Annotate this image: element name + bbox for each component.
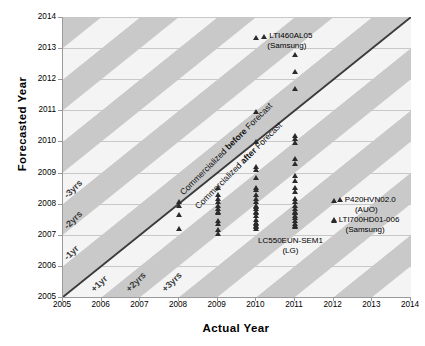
data-point [215, 231, 221, 236]
x-tick-label: 2012 [313, 300, 353, 309]
y-tick-mark [58, 173, 62, 174]
y-tick-label: 2011 [22, 105, 56, 114]
callout-manufacturer: (Samsung) [261, 41, 312, 51]
point-callout: LTI460AL05(Samsung) [261, 31, 312, 51]
data-point [253, 167, 259, 172]
data-point [292, 161, 298, 166]
data-point [176, 226, 182, 231]
callout-model-name: P420HVN02.0 [345, 195, 396, 204]
y-tick-label: 2008 [22, 199, 56, 208]
data-point [292, 224, 298, 229]
data-point [253, 109, 259, 114]
data-point [292, 69, 298, 74]
data-point [292, 140, 298, 145]
data-point [215, 185, 221, 190]
y-tick-label: 2013 [22, 43, 56, 52]
x-tick-label: 2006 [81, 300, 121, 309]
x-axis-title: Actual Year [62, 322, 410, 334]
callout-line-name: LC550EUN-SEM1 [258, 236, 323, 246]
y-tick-mark [58, 17, 62, 18]
data-point [176, 203, 182, 208]
callout-line-name: LTI700HD01-006 [331, 215, 400, 225]
data-point [215, 210, 221, 215]
callout-line-name: P420HVN02.0 [337, 195, 396, 205]
y-tick-mark [58, 266, 62, 267]
x-tick-label: 2008 [158, 300, 198, 309]
y-tick-label: 2012 [22, 74, 56, 83]
callout-model-name: LTI700HD01-006 [339, 215, 400, 224]
point-callout: P420HVN02.0(AUO) [337, 195, 396, 215]
x-tick-mark [410, 297, 411, 301]
data-point [292, 52, 298, 57]
y-tick-label: 2009 [22, 168, 56, 177]
x-tick-mark [101, 297, 102, 301]
x-tick-mark [294, 297, 295, 301]
y-tick-mark [58, 141, 62, 142]
x-tick-mark [371, 297, 372, 301]
x-tick-mark [217, 297, 218, 301]
data-point [253, 139, 259, 144]
data-point [253, 226, 259, 231]
x-tick-label: 2009 [197, 300, 237, 309]
callout-manufacturer: (LG) [258, 246, 323, 256]
data-point [176, 212, 182, 217]
x-tick-label: 2011 [274, 300, 314, 309]
y-tick-label: 2014 [22, 12, 56, 21]
x-tick-label: 2013 [351, 300, 391, 309]
y-tick-mark [58, 79, 62, 80]
callout-model-name: LTI460AL05 [269, 31, 312, 40]
point-callout: LTI700HD01-006(Samsung) [331, 215, 400, 235]
data-point-layer [63, 17, 411, 297]
x-tick-mark [62, 297, 63, 301]
y-tick-mark [58, 110, 62, 111]
forecast-accuracy-chart: Forecasted Year Actual Year -3yrs-2yrs-1… [0, 0, 425, 346]
plot-area: -3yrs-2yrs-1yr+1yr+2yrs+3yrsCommercializ… [62, 17, 411, 298]
data-point [292, 189, 298, 194]
x-tick-mark [333, 297, 334, 301]
x-tick-label: 2010 [235, 300, 275, 309]
x-tick-label: 2007 [119, 300, 159, 309]
x-tick-mark [139, 297, 140, 301]
data-point [292, 86, 298, 91]
y-tick-label: 2010 [22, 136, 56, 145]
y-tick-mark [58, 235, 62, 236]
x-tick-mark [255, 297, 256, 301]
y-tick-label: 2006 [22, 261, 56, 270]
data-point [292, 178, 298, 183]
x-tick-label: 2005 [42, 300, 82, 309]
point-callout: LC550EUN-SEM1(LG) [258, 236, 323, 256]
data-point [253, 35, 259, 40]
callout-marker-triangle-icon [337, 197, 343, 202]
data-point [331, 198, 337, 203]
callout-line-name: LTI460AL05 [261, 31, 312, 41]
data-point [215, 221, 221, 226]
data-point [253, 175, 259, 180]
y-tick-label: 2007 [22, 230, 56, 239]
y-tick-mark [58, 204, 62, 205]
callout-manufacturer: (AUO) [337, 205, 396, 215]
y-tick-mark [58, 48, 62, 49]
callout-marker-triangle-icon [261, 34, 267, 39]
callout-manufacturer: (Samsung) [331, 225, 400, 235]
x-tick-mark [178, 297, 179, 301]
x-tick-label: 2014 [390, 300, 425, 309]
callout-model-name: LC550EUN-SEM1 [258, 236, 323, 245]
callout-marker-triangle-icon [331, 217, 337, 222]
